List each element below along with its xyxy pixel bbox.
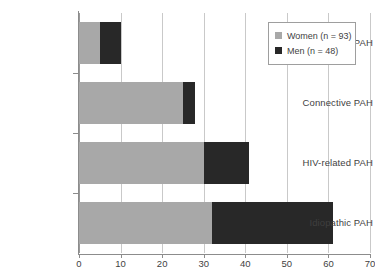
y-axis-line: [78, 11, 79, 255]
bar-segment: [79, 142, 204, 184]
bar-segment: [79, 82, 183, 124]
legend-label-women: Women (n = 93): [287, 31, 352, 41]
legend-item-men: Men (n = 48): [275, 43, 349, 58]
legend-item-women: Women (n = 93): [275, 28, 349, 43]
x-axis-label-60: 60: [323, 258, 334, 269]
x-axis-label-10: 10: [115, 258, 126, 269]
x-axis-tick-labels: 010203040506070: [0, 258, 373, 274]
y-axis-label-3: HIV-related PAH: [299, 157, 373, 168]
x-axis-label-0: 0: [76, 258, 81, 269]
y-axis-tick: [73, 193, 78, 194]
x-axis-label-70: 70: [365, 258, 375, 269]
bar-segment: [79, 202, 212, 244]
x-axis-label-20: 20: [157, 258, 168, 269]
x-axis-line: [78, 254, 371, 255]
legend-label-men: Men (n = 48): [287, 46, 338, 56]
y-axis-tick: [73, 73, 78, 74]
y-axis-tick: [73, 133, 78, 134]
y-axis-label-4: Idiopathic PAH: [299, 217, 373, 228]
x-axis-label-40: 40: [240, 258, 251, 269]
x-axis-label-50: 50: [282, 258, 293, 269]
x-axis-label-30: 30: [198, 258, 209, 269]
legend: Women (n = 93) Men (n = 48): [268, 22, 356, 65]
bar-segment: [100, 22, 121, 64]
legend-swatch-men-icon: [275, 47, 282, 54]
bar-segment: [79, 22, 100, 64]
y-axis-label-2: Connective PAH: [299, 97, 373, 108]
bar-segment: [204, 142, 250, 184]
bar-segment: [183, 82, 195, 124]
legend-swatch-women-icon: [275, 32, 282, 39]
